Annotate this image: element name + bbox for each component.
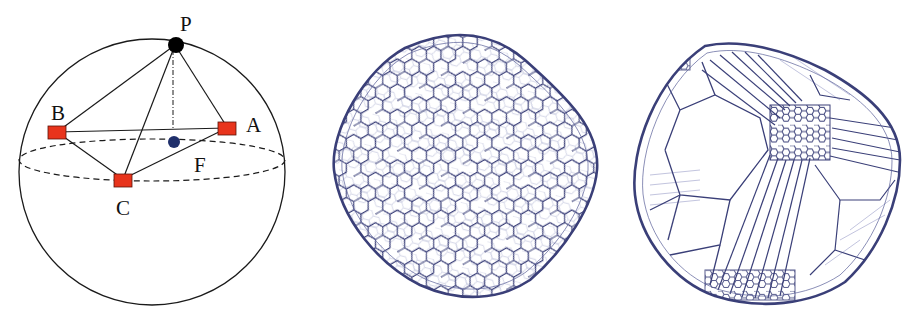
nonuniform-voronoi-mesh (610, 0, 923, 317)
uniform-mesh-svg (310, 0, 610, 317)
point-b (48, 126, 66, 139)
equator-ellipse (19, 139, 285, 181)
sphere-diagram-svg: P B A C F (0, 0, 310, 317)
point-a (218, 122, 236, 135)
label-p: P (180, 12, 192, 36)
point-f (168, 136, 180, 148)
label-f: F (194, 153, 206, 177)
point-p (168, 37, 184, 53)
label-b: B (51, 101, 65, 125)
mesh-cells (310, 0, 610, 317)
label-a: A (246, 113, 262, 137)
point-c (114, 174, 132, 187)
nonuniform-mesh-svg (610, 0, 923, 317)
uniform-voronoi-mesh (310, 0, 610, 317)
mesh-outline (634, 43, 900, 303)
label-c: C (116, 196, 130, 220)
sphere-outline (19, 39, 285, 305)
sphere-tetrahedron-diagram: P B A C F (0, 0, 310, 317)
